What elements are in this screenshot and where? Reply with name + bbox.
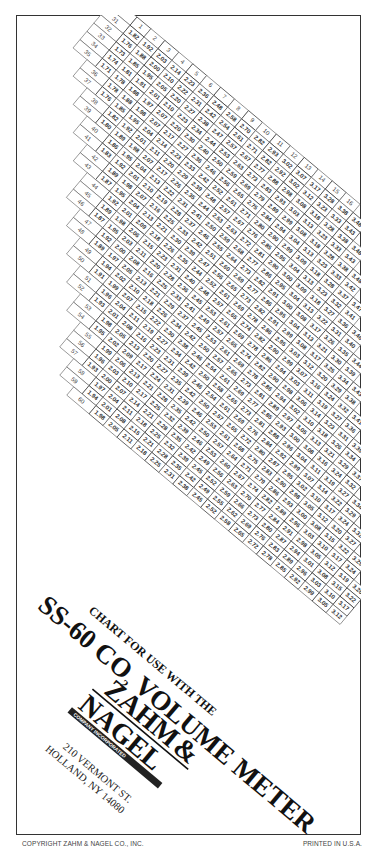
printed-in-notice: PRINTED IN U.S.A. <box>303 840 362 847</box>
copyright-notice: COPYRIGHT ZAHM & NAGEL CO., INC. <box>22 840 144 847</box>
co2-volume-chart: 3012345678910111213141516311.821.922.032… <box>0 0 382 866</box>
rotated-volume-table: 3012345678910111213141516311.821.922.032… <box>60 0 368 624</box>
